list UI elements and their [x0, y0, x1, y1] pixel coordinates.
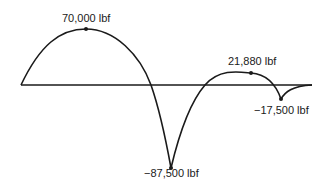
label-min2: −17,500 lbf: [254, 104, 309, 116]
point-peak2-marker: [249, 71, 253, 75]
point-min2-marker: [279, 97, 283, 101]
curve-segment-5: [281, 85, 312, 99]
curve-segment-3: [171, 72, 251, 168]
label-peak1: 70,000 lbf: [62, 12, 110, 24]
point-peak1-marker: [84, 27, 88, 31]
label-peak2: 21,880 lbf: [228, 55, 276, 67]
curve-segment-1: [21, 29, 151, 85]
label-min1: −87,500 lbf: [144, 167, 199, 179]
diagram-canvas: [0, 0, 331, 182]
curve-segment-4: [251, 73, 281, 99]
curve-segment-2: [151, 85, 171, 168]
